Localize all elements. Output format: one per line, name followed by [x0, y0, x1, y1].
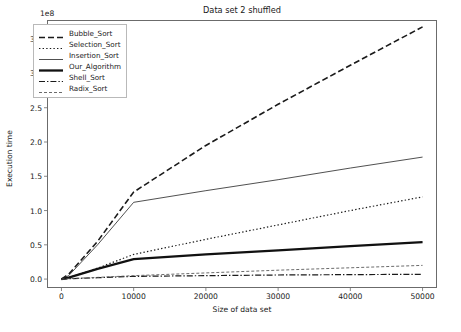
legend-label: Bubble_Sort [69, 29, 112, 38]
legend-label: Insertion_Sort [69, 51, 119, 60]
y-axis-title: Execution time [5, 119, 14, 199]
series-line-shell_sort [61, 274, 422, 279]
legend-item[interactable]: Radix_Sort [38, 83, 121, 94]
legend-item[interactable]: Shell_Sort [38, 72, 121, 83]
legend-line-sample-icon [38, 28, 64, 39]
legend-line-sample-icon [38, 50, 64, 61]
legend-label: Shell_Sort [69, 73, 105, 82]
legend-line-sample-icon [38, 72, 64, 83]
legend-line-sample-icon [38, 83, 64, 94]
legend-item[interactable]: Our_Algorithm [38, 61, 121, 72]
series-line-insertion_sort [61, 157, 422, 279]
legend-line-sample-icon [38, 61, 64, 72]
legend-label: Selection_Sort [69, 40, 120, 49]
legend: Bubble_SortSelection_SortInsertion_SortO… [33, 24, 127, 98]
legend-label: Radix_Sort [69, 84, 107, 93]
legend-item[interactable]: Bubble_Sort [38, 28, 121, 39]
legend-line-sample-icon [38, 39, 64, 50]
legend-item[interactable]: Selection_Sort [38, 39, 121, 50]
matplotlib-figure: Data set 2 shuffled 1e8 0.00.51.01.52.02… [0, 0, 461, 332]
legend-item[interactable]: Insertion_Sort [38, 50, 121, 61]
series-line-our_algorithm [61, 242, 422, 279]
legend-label: Our_Algorithm [69, 62, 121, 71]
x-axis-title: Size of data set [47, 305, 437, 314]
